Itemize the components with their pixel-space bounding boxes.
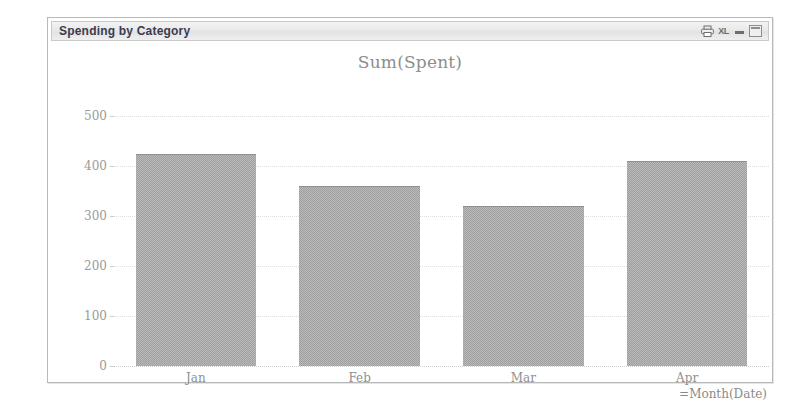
window-controls: XL: [701, 25, 768, 38]
bar[interactable]: [299, 186, 419, 366]
x-axis-labels: =Month(Date) JanFebMarApr: [114, 371, 769, 411]
bar[interactable]: [136, 154, 256, 367]
bar[interactable]: [463, 206, 583, 366]
x-axis-tick-label: Jan: [114, 371, 278, 385]
y-axis-tick-mark: [110, 166, 114, 167]
export-to-excel-icon[interactable]: XL: [717, 25, 730, 38]
bar[interactable]: [627, 161, 747, 366]
plot-area[interactable]: [114, 116, 769, 366]
export-to-excel-label: XL: [718, 26, 729, 36]
gridline: [114, 116, 769, 117]
maximize-icon: [749, 25, 762, 37]
chart-body[interactable]: Sum(Spent) 5004003002001000 =Month(Date)…: [51, 43, 769, 379]
chart-title: Sum(Spent): [51, 52, 769, 72]
page-title: Spending by Category: [52, 22, 190, 40]
y-axis-tick-mark: [110, 116, 114, 117]
y-axis-tick-mark: [110, 316, 114, 317]
x-axis-title: =Month(Date): [679, 387, 767, 401]
x-axis-tick-label: Feb: [278, 371, 442, 385]
y-axis-tick-mark: [110, 216, 114, 217]
y-axis-tick-label: 0: [99, 359, 107, 373]
y-axis-tick-label: 400: [84, 159, 107, 173]
y-axis-tick-label: 100: [84, 309, 107, 323]
chart-window[interactable]: Spending by Category XL Sum(Spent): [47, 17, 773, 383]
x-axis-tick-label: Mar: [442, 371, 606, 385]
x-axis-tick-label: Apr: [605, 371, 769, 385]
y-axis-tick-label: 300: [84, 209, 107, 223]
y-axis-tick-mark: [110, 266, 114, 267]
minimize-icon: [734, 25, 745, 37]
minimize-button[interactable]: [733, 25, 746, 38]
window-title-bar[interactable]: Spending by Category XL: [51, 21, 769, 41]
y-axis-tick-label: 500: [84, 109, 107, 123]
gridline: [114, 366, 769, 367]
y-axis-tick-label: 200: [84, 259, 107, 273]
plot-wrapper: 5004003002001000 =Month(Date) JanFebMarA…: [51, 83, 769, 379]
print-icon[interactable]: [701, 25, 714, 38]
y-axis-labels: 5004003002001000: [51, 116, 107, 366]
maximize-button[interactable]: [749, 25, 762, 38]
y-axis-tick-mark: [110, 366, 114, 367]
